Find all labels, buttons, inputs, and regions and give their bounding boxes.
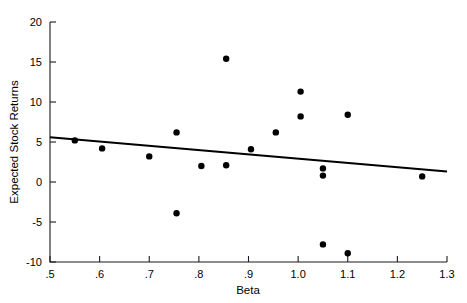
- x-tick-label: .8: [194, 268, 203, 280]
- data-point: [72, 137, 78, 143]
- y-tick-label: 15: [30, 56, 42, 68]
- x-axis-title: Beta: [236, 284, 260, 296]
- regression-trend-line: [50, 137, 447, 171]
- y-axis-title: Expected Stock Returns: [8, 80, 20, 204]
- x-tick-label: .6: [95, 268, 104, 280]
- data-point: [146, 153, 152, 159]
- data-point: [320, 172, 326, 178]
- x-axis-tick-labels: .5.6.7.8.91.01.11.21.3: [45, 268, 454, 280]
- data-point: [223, 56, 229, 62]
- y-axis-tick-labels: -10-505101520: [26, 16, 42, 268]
- data-point: [198, 163, 204, 169]
- data-point: [345, 250, 351, 256]
- x-tick-label: 1.1: [340, 268, 355, 280]
- y-tick-label: 10: [30, 96, 42, 108]
- data-point: [273, 129, 279, 135]
- y-tick-label: -10: [26, 256, 42, 268]
- data-points-group: [72, 56, 426, 257]
- x-tick-label: .5: [45, 268, 54, 280]
- data-point: [99, 145, 105, 151]
- data-point: [173, 129, 179, 135]
- data-point: [173, 210, 179, 216]
- y-tick-label: -5: [32, 216, 42, 228]
- plot-canvas: -10-505101520 .5.6.7.8.91.01.11.21.3 Bet…: [0, 0, 467, 303]
- data-point: [297, 113, 303, 119]
- data-point: [320, 165, 326, 171]
- x-tick-label: 1.0: [290, 268, 305, 280]
- x-tick-label: 1.3: [439, 268, 454, 280]
- data-point: [345, 112, 351, 118]
- data-point: [248, 146, 254, 152]
- data-point: [297, 88, 303, 94]
- data-point: [419, 173, 425, 179]
- x-tick-label: .7: [145, 268, 154, 280]
- x-tick-label: 1.2: [390, 268, 405, 280]
- y-tick-label: 0: [36, 176, 42, 188]
- x-tick-label: .9: [244, 268, 253, 280]
- scatter-plot-figure: -10-505101520 .5.6.7.8.91.01.11.21.3 Bet…: [0, 0, 467, 303]
- data-point: [223, 162, 229, 168]
- y-tick-label: 20: [30, 16, 42, 28]
- y-tick-label: 5: [36, 136, 42, 148]
- data-point: [320, 241, 326, 247]
